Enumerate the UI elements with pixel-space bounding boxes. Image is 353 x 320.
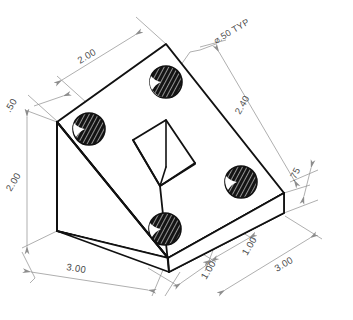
ext-line-l [285, 216, 322, 239]
hole-diameter-callout: ⌀.50 TYP [212, 17, 251, 46]
dim-hole-offset: .50 [2, 96, 19, 114]
dim-notch-outer: 1.00 [198, 258, 218, 281]
ext-line-d [25, 110, 57, 122]
ext-line-q [30, 278, 35, 283]
dim-line-base-left [31, 272, 148, 290]
ext-line-k [284, 200, 318, 213]
ext-line-b [57, 76, 87, 103]
dim-base-length-right: 3.00 [272, 254, 295, 274]
technical-drawing-canvas: ⌀.50 TYP 2.00 .50 2.00 3.00 2.40 .75 1.0… [0, 0, 353, 320]
dim-line-hole-offset [34, 96, 63, 106]
dim-notch-inner: 1.00 [239, 234, 259, 257]
ext-line-m [165, 272, 180, 296]
hole-right [225, 166, 257, 198]
dim-base-length-left: 3.00 [66, 261, 87, 275]
dim-top-width: 2.00 [75, 46, 98, 66]
hole-top [150, 66, 182, 98]
hole-bottom [149, 213, 181, 245]
ext-line-c [136, 17, 166, 44]
dim-thickness: .75 [286, 165, 302, 183]
dim-height: 2.00 [3, 170, 23, 193]
isometric-drawing-svg: ⌀.50 TYP 2.00 .50 2.00 3.00 2.40 .75 1.0… [0, 0, 353, 320]
ext-line-f [22, 252, 35, 278]
dim-line-base-right [225, 238, 310, 290]
dim-line-thickness [304, 168, 311, 196]
dim-slope-length: 2.40 [232, 93, 251, 116]
hole-left [73, 113, 105, 145]
